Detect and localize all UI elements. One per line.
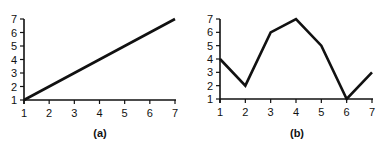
panel-caption: (b) [290,127,304,139]
x-tick-label: 4 [96,107,102,119]
y-tick-label: 1 [207,93,213,105]
x-tick-label: 5 [122,107,128,119]
x-tick-label: 3 [71,107,77,119]
x-tick-label: 1 [21,107,27,119]
y-tick-label: 6 [207,26,213,38]
y-tick-label: 4 [11,54,17,66]
y-tick-label: 1 [11,94,17,106]
figure: 12345671234567(a)12345671234567(b) [0,0,383,151]
y-tick-label: 5 [11,40,17,52]
panel-caption: (a) [93,127,107,139]
x-tick-label: 3 [268,106,274,118]
y-tick-label: 2 [11,81,17,93]
series-line-a [24,19,175,100]
x-tick-label: 7 [172,107,178,119]
x-tick-label: 7 [369,106,375,118]
chart-panel-a: 12345671234567(a) [11,13,178,139]
y-tick-label: 3 [11,67,17,79]
y-tick-label: 7 [207,13,213,25]
y-tick-label: 7 [11,13,17,25]
y-tick-label: 3 [207,66,213,78]
series-line-b [220,19,372,99]
y-tick-label: 4 [207,53,213,65]
x-tick-label: 6 [147,107,153,119]
x-tick-label: 5 [318,106,324,118]
x-tick-label: 1 [217,106,223,118]
x-tick-label: 4 [293,106,299,118]
y-tick-label: 2 [207,80,213,92]
y-tick-label: 6 [11,27,17,39]
x-tick-label: 6 [344,106,350,118]
y-tick-label: 5 [207,40,213,52]
x-tick-label: 2 [242,106,248,118]
x-tick-label: 2 [46,107,52,119]
chart-panel-b: 12345671234567(b) [207,13,375,139]
